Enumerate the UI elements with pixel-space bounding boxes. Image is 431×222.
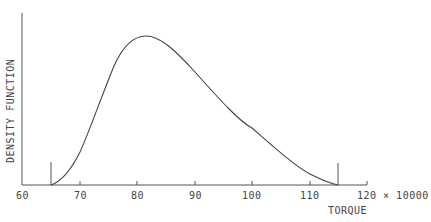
x-tick-label-70: 70 <box>74 190 87 201</box>
density-chart: 60 70 80 90 100 110 120 × 10000 TORQUE D… <box>0 0 431 222</box>
x-tick-label-80: 80 <box>131 190 144 201</box>
x-tick-label-90: 90 <box>189 190 202 201</box>
y-axis-title: DENSITY FUNCTION <box>5 59 16 163</box>
x-tick-label-100: 100 <box>242 190 262 201</box>
x-ticks <box>80 181 367 185</box>
density-curve <box>51 36 338 185</box>
x-tick-label-110: 110 <box>300 190 320 201</box>
x-tick-label-60: 60 <box>16 190 29 201</box>
x-axis-title: TORQUE <box>328 205 367 216</box>
x-tick-label-120-multiplier: 120 × 10000 <box>357 190 429 201</box>
